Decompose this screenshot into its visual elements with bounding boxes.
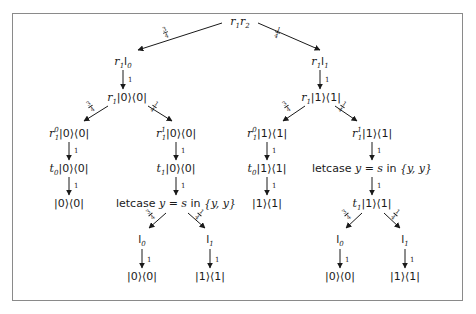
edge-label-one: 1 <box>345 256 349 264</box>
edge-label-one: 1 <box>377 182 381 190</box>
edge-root-right <box>258 23 320 50</box>
node-root: r1r2 <box>230 16 249 28</box>
node-rl-level4: t0|1⟩⟨1| <box>248 163 287 175</box>
node-rr-final-r: |1⟩⟨1| <box>390 271 420 283</box>
edge-label-one: 1 <box>74 182 78 190</box>
node-rr-level5: t1|1⟩⟨1| <box>353 198 392 210</box>
node-lr-final-r: |1⟩⟨1| <box>195 271 225 283</box>
node-l-level1: r1l0 <box>114 56 131 68</box>
node-ll-level4: t0|0⟩⟨0| <box>50 163 89 175</box>
edge-label-one: 1 <box>147 256 151 264</box>
node-lr-level3: r11|0⟩⟨0| <box>156 128 196 140</box>
edge-l2-ll3 <box>84 106 108 121</box>
node-lr-level4: t1|0⟩⟨0| <box>157 163 196 175</box>
node-r-level2: r1|1⟩⟨1| <box>301 92 341 104</box>
node-l-level2: r1|0⟩⟨0| <box>107 92 147 104</box>
node-ll-level3: r01|0⟩⟨0| <box>49 128 89 140</box>
node-rr-level3: r11|1⟩⟨1| <box>352 128 392 140</box>
node-rr-leaf-r: l1 <box>401 234 409 246</box>
node-rr-final-l: |0⟩⟨0| <box>325 271 355 283</box>
edge-label-one: 1 <box>272 182 276 190</box>
node-rl-level5: |1⟩⟨1| <box>252 198 282 210</box>
edge-label-one: 1 <box>215 256 219 264</box>
edge-label-one: 1 <box>128 76 132 84</box>
tree-edges <box>0 0 476 314</box>
edge-label-one: 1 <box>74 147 78 155</box>
node-lr-final-l: |0⟩⟨0| <box>127 271 157 283</box>
edge-label-one: 1 <box>181 147 185 155</box>
node-r-level1: r1l1 <box>311 56 328 68</box>
node-rr-leaf-l: l0 <box>336 234 344 246</box>
edge-label-one: 1 <box>325 76 329 84</box>
edge-label-one: 1 <box>272 147 276 155</box>
node-lr-leaf-r: l1 <box>206 234 214 246</box>
node-ll-level5: |0⟩⟨0| <box>54 198 84 210</box>
edge-label-one: 1 <box>181 182 185 190</box>
node-lr-leaf-l: l0 <box>138 234 146 246</box>
node-lr-level5-letcase: letcase y = s in {y, y} <box>116 198 236 210</box>
edge-label-one: 1 <box>377 147 381 155</box>
node-rl-level3: r01|1⟩⟨1| <box>247 128 287 140</box>
edge-label-one: 1 <box>410 256 414 264</box>
edge-root-left <box>138 23 222 50</box>
node-rr-level4-letcase: letcase y = s in {y, y} <box>312 163 432 175</box>
